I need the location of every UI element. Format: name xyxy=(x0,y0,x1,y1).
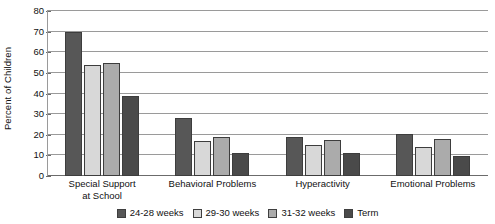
bar-group xyxy=(378,11,488,176)
x-axis-label-line: Hyperactivity xyxy=(268,178,378,190)
bar xyxy=(194,141,211,176)
bar xyxy=(324,140,341,176)
x-axis-label-line: at School xyxy=(47,190,157,202)
grouped-bar-chart: Percent of Children 01020304050607080 Sp… xyxy=(0,0,495,224)
bar xyxy=(396,134,413,176)
x-axis-category-labels: Special Supportat SchoolBehavioral Probl… xyxy=(47,178,488,204)
y-tick-label-80: 80 xyxy=(16,6,44,16)
legend-item-label: Term xyxy=(357,208,378,218)
y-tick-label-30: 30 xyxy=(16,109,44,119)
y-tick-label-70: 70 xyxy=(16,27,44,37)
x-axis-label: Hyperactivity xyxy=(268,178,378,190)
legend-item-label: 24-28 weeks xyxy=(130,208,184,218)
x-axis-label-line: Behavioral Problems xyxy=(157,178,267,190)
bar xyxy=(122,96,139,176)
y-tick-label-60: 60 xyxy=(16,47,44,57)
bar-group xyxy=(268,11,378,176)
x-axis-label: Behavioral Problems xyxy=(157,178,267,190)
bar-layer xyxy=(47,11,488,176)
y-tick-label-0: 0 xyxy=(16,171,44,181)
bar xyxy=(453,156,470,176)
y-axis-tick-labels: 01020304050607080 xyxy=(16,0,44,187)
legend-swatch-icon xyxy=(268,209,277,218)
y-tick-label-20: 20 xyxy=(16,130,44,140)
bar xyxy=(65,32,82,176)
bar xyxy=(213,137,230,176)
legend-item[interactable]: Term xyxy=(344,208,378,218)
legend-item-label: 31-32 weeks xyxy=(281,208,335,218)
bar xyxy=(175,118,192,176)
x-axis-label-line: Special Support xyxy=(47,178,157,190)
plot-area xyxy=(47,11,488,176)
bar xyxy=(305,145,322,176)
y-tick-label-10: 10 xyxy=(16,150,44,160)
bar xyxy=(343,153,360,176)
legend-swatch-icon xyxy=(344,209,353,218)
bar-group xyxy=(157,11,267,176)
x-axis-label: Emotional Problems xyxy=(378,178,488,190)
bar xyxy=(415,147,432,176)
bar xyxy=(232,153,249,176)
y-tick-label-50: 50 xyxy=(16,68,44,78)
legend-swatch-icon xyxy=(117,209,126,218)
bar xyxy=(84,65,101,176)
y-tick-mark-0 xyxy=(46,176,51,177)
y-axis-title-text: Percent of Children xyxy=(3,46,14,129)
chart-legend: 24-28 weeks29-30 weeks31-32 weeksTerm xyxy=(0,204,495,222)
legend-item[interactable]: 31-32 weeks xyxy=(268,208,335,218)
x-axis-label-line: Emotional Problems xyxy=(378,178,488,190)
legend-item-label: 29-30 weeks xyxy=(206,208,260,218)
legend-swatch-icon xyxy=(193,209,202,218)
bar-group xyxy=(47,11,157,176)
legend-item[interactable]: 24-28 weeks xyxy=(117,208,184,218)
x-axis-label: Special Supportat School xyxy=(47,178,157,201)
y-tick-label-40: 40 xyxy=(16,89,44,99)
legend-item[interactable]: 29-30 weeks xyxy=(193,208,260,218)
y-axis-title: Percent of Children xyxy=(0,0,16,176)
bar xyxy=(286,137,303,176)
bar xyxy=(434,139,451,176)
bar xyxy=(103,63,120,176)
